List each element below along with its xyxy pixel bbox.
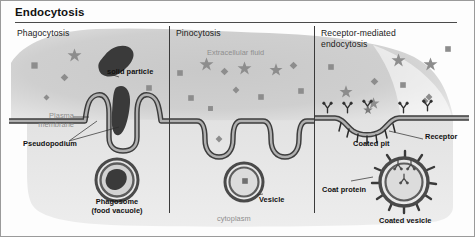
label-extracellular-fluid: Extracellular fluid bbox=[207, 48, 264, 57]
column-divider-1 bbox=[169, 26, 170, 213]
phagosome-vacuole bbox=[96, 159, 138, 201]
square-particle bbox=[146, 85, 152, 91]
square-particle bbox=[31, 62, 37, 68]
square-particle bbox=[208, 106, 213, 111]
square-particle bbox=[188, 95, 194, 101]
square-particle bbox=[445, 46, 451, 52]
column-header-phagocytosis: Phagocytosis bbox=[17, 28, 69, 39]
label-vesicle: Vesicle bbox=[259, 195, 284, 204]
label-solid-particle: solid particle bbox=[107, 67, 153, 76]
square-particle bbox=[242, 178, 248, 184]
column-divider-2 bbox=[314, 26, 315, 213]
column-header-receptor-mediated: Receptor-mediated endocytosis bbox=[321, 28, 431, 49]
label-pseudopodium: Pseudopodium bbox=[23, 139, 77, 148]
label-plasma-membrane: Plasma membrane bbox=[34, 111, 74, 129]
square-particle bbox=[258, 94, 264, 100]
square-particle bbox=[298, 88, 304, 94]
label-coated-vesicle: Coated vesicle bbox=[379, 216, 431, 225]
endocytosis-figure: Endocytosis bbox=[0, 0, 475, 237]
label-coat-protein: Coat protein bbox=[322, 185, 366, 194]
label-phagosome-line1: Phagosome bbox=[96, 197, 138, 206]
square-particle bbox=[328, 64, 334, 70]
label-plasma-membrane-line1: Plasma bbox=[49, 111, 74, 120]
column-header-pinocytosis: Pinocytosis bbox=[176, 28, 221, 39]
label-cytoplasm: cytoplasm bbox=[217, 214, 251, 223]
label-phagosome: Phagosome (food vacuole) bbox=[79, 197, 155, 215]
label-receptor: Receptor bbox=[425, 132, 457, 141]
label-phagosome-line2: (food vacuole) bbox=[91, 206, 142, 215]
label-coated-pit: Coated pit bbox=[353, 139, 390, 148]
label-plasma-membrane-line2: membrane bbox=[38, 120, 74, 129]
square-particle bbox=[400, 82, 406, 88]
square-particle bbox=[177, 70, 183, 76]
